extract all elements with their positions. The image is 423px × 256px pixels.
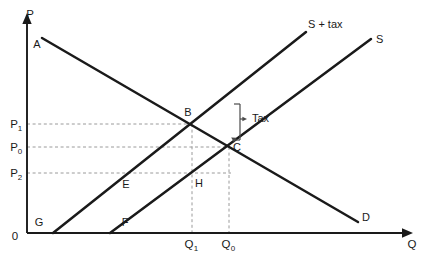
point-label-d: D bbox=[362, 211, 370, 223]
price-tick-p2-subscript: 2 bbox=[18, 173, 23, 182]
point-label-b: B bbox=[184, 106, 191, 118]
quantity-tick-q0-base: Q bbox=[222, 238, 231, 250]
tax-arrow-icon bbox=[242, 117, 247, 121]
point-label-f: F bbox=[122, 216, 129, 228]
supply-plus-tax-curve-label: S + tax bbox=[308, 18, 343, 30]
point-label-e: E bbox=[122, 178, 129, 190]
origin-label: 0 bbox=[12, 230, 18, 242]
quantity-tick-labels: Q 1 Q 0 bbox=[185, 238, 236, 253]
price-tick-labels: P 1 P 0 P 2 bbox=[10, 118, 23, 182]
supply-plus-tax-curve bbox=[53, 32, 306, 233]
point-label-g: G bbox=[35, 216, 44, 228]
quantity-axis-label: Q bbox=[408, 238, 417, 250]
price-axis-label: P bbox=[26, 8, 34, 20]
quantity-axis-arrowhead bbox=[402, 228, 413, 237]
supply-curve-label: S bbox=[376, 33, 383, 45]
quantity-tick-q0-subscript: 0 bbox=[231, 244, 236, 253]
axes-group bbox=[27, 20, 406, 233]
point-label-a: A bbox=[33, 38, 41, 50]
price-tick-p1-subscript: 1 bbox=[18, 124, 23, 133]
quantity-tick-q1-subscript: 1 bbox=[194, 244, 199, 253]
demand-curve bbox=[42, 38, 358, 222]
quantity-tick-q1-base: Q bbox=[185, 238, 194, 250]
price-tick-p0-subscript: 0 bbox=[18, 147, 23, 156]
tax-annotation-label: Tax bbox=[252, 112, 270, 124]
diagram-canvas: P Q 0 P 1 P 0 P 2 Q 1 Q 0 S + tax S A B … bbox=[0, 0, 423, 256]
tax-incidence-diagram: P Q 0 P 1 P 0 P 2 Q 1 Q 0 S + tax S A B … bbox=[0, 0, 423, 256]
point-label-c: C bbox=[233, 141, 241, 153]
point-label-h: H bbox=[195, 177, 203, 189]
